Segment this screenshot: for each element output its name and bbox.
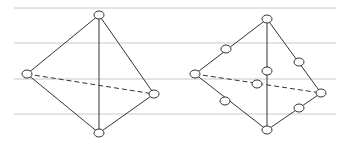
node-circle (190, 70, 200, 78)
left-tetrahedron-4-node (22, 11, 159, 137)
node-circle (221, 45, 231, 53)
node-circle (294, 58, 304, 66)
node-circle (220, 97, 230, 105)
node-circle (316, 89, 326, 97)
node-circle (262, 67, 272, 75)
edge (195, 19, 267, 74)
node-circle (252, 80, 262, 88)
node-circle (149, 90, 159, 98)
edge (267, 19, 321, 93)
diagram-svg (0, 0, 347, 145)
right-tetrahedron-10-node (190, 15, 326, 134)
tetrahedron-diagram (0, 0, 347, 145)
edge (27, 74, 99, 133)
guide-lines (14, 8, 336, 114)
edge (267, 93, 321, 130)
edge (27, 15, 99, 74)
node-circle (262, 15, 272, 23)
node-circle (94, 11, 104, 19)
node-circle (94, 129, 104, 137)
hidden-edge (27, 74, 154, 94)
node-circle (262, 126, 272, 134)
node-circle (22, 70, 32, 78)
node-circle (294, 104, 304, 112)
edge (99, 15, 154, 94)
